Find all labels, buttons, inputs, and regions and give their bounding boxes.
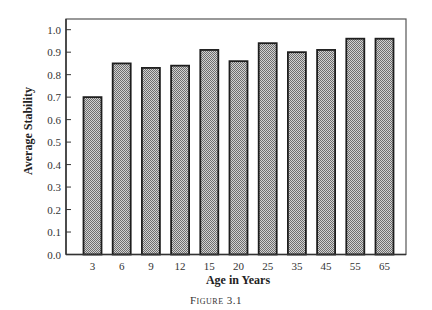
y-tick-label: 0.2 bbox=[47, 204, 61, 216]
x-tick-label: 65 bbox=[379, 260, 391, 272]
y-tick-label: 0.6 bbox=[47, 114, 61, 126]
bar-age-15 bbox=[200, 50, 218, 255]
y-tick-label: 0.1 bbox=[47, 226, 61, 238]
bar-age-20 bbox=[230, 61, 248, 254]
y-axis-title: Average Stability bbox=[21, 87, 35, 175]
y-tick-label: 0.4 bbox=[47, 159, 61, 171]
bar-age-6 bbox=[113, 63, 131, 254]
y-tick-label: 0.7 bbox=[47, 91, 61, 103]
bar-age-9 bbox=[142, 68, 160, 255]
x-axis-title: Age in Years bbox=[206, 273, 271, 287]
bar-age-12 bbox=[171, 66, 189, 255]
x-tick-label: 15 bbox=[204, 260, 216, 272]
x-tick-label: 6 bbox=[119, 260, 125, 272]
x-tick-label: 3 bbox=[90, 260, 96, 272]
y-tick-label: 0.0 bbox=[47, 249, 61, 261]
bar-age-3 bbox=[84, 97, 102, 254]
y-tick-label: 1.0 bbox=[47, 24, 61, 36]
y-tick-label: 0.3 bbox=[47, 181, 61, 193]
bar-age-65 bbox=[376, 39, 394, 255]
y-tick-label: 0.5 bbox=[47, 136, 61, 148]
x-tick-label: 35 bbox=[291, 260, 303, 272]
x-tick-label: 25 bbox=[262, 260, 274, 272]
x-axis: 3691215202535455565 bbox=[66, 255, 406, 272]
bar-age-55 bbox=[346, 39, 364, 255]
bars bbox=[84, 39, 394, 255]
bar-age-45 bbox=[317, 50, 335, 255]
bar-chart: 0.00.10.20.30.40.50.60.70.80.91.0 369121… bbox=[0, 0, 432, 310]
x-tick-label: 9 bbox=[148, 260, 154, 272]
x-tick-label: 12 bbox=[175, 260, 186, 272]
y-tick-label: 0.8 bbox=[47, 69, 61, 81]
x-tick-label: 55 bbox=[350, 260, 362, 272]
bar-age-35 bbox=[288, 52, 306, 254]
x-tick-label: 20 bbox=[233, 260, 245, 272]
y-axis: 0.00.10.20.30.40.50.60.70.80.91.0 bbox=[47, 19, 71, 261]
figure-caption: Figure 3.1 bbox=[0, 294, 432, 306]
y-tick-label: 0.9 bbox=[47, 46, 61, 58]
bar-age-25 bbox=[259, 43, 277, 254]
x-tick-label: 45 bbox=[321, 260, 333, 272]
